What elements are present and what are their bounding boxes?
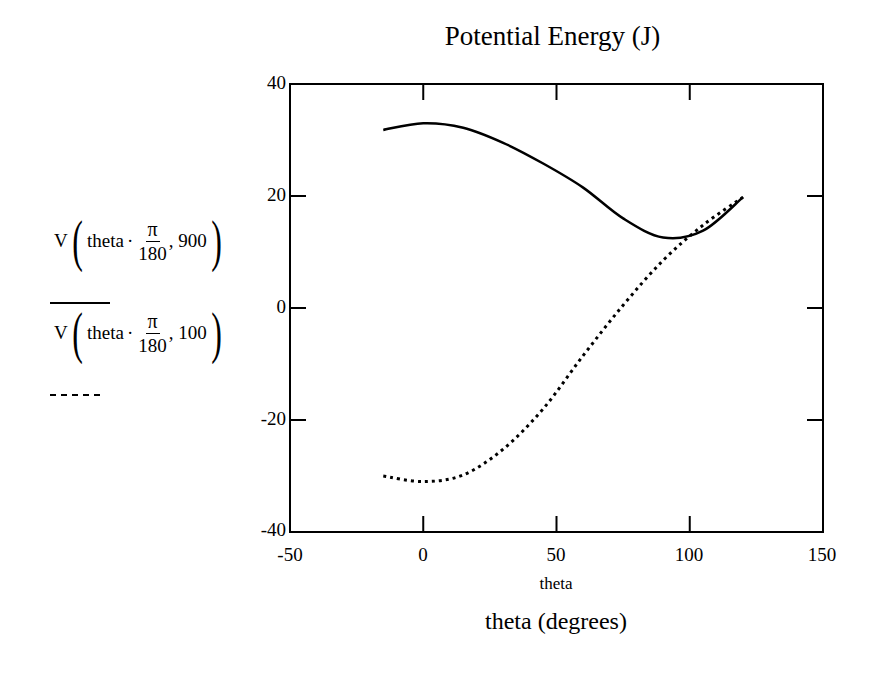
x-tick-label: -50 [260,544,320,566]
legend-var: theta [87,230,124,252]
fraction-denominator: 180 [138,242,167,266]
x-tick-label: 100 [659,544,719,566]
legend-entry-series1: V ( theta · π 180 , 900 ) [54,212,226,270]
legend-func: V [54,230,68,252]
x-variable-label: theta [496,574,616,594]
x-tick-label: 0 [393,544,453,566]
legend-dot: · [127,230,133,252]
legend-fraction: π 180 [138,309,167,358]
y-tick-label: 0 [246,296,286,318]
y-tick-label: 20 [246,184,286,206]
legend-dot: · [127,322,133,344]
legend-dashed-line-swatch [50,394,104,396]
x-axis-title: theta (degrees) [426,608,686,635]
y-tick-label: 40 [246,72,286,94]
legend-arg: , 900 [169,230,207,252]
legend-var: theta [87,322,124,344]
plot-frame [290,84,823,532]
left-paren: ( [72,304,83,362]
fraction-denominator: 180 [138,334,167,358]
fraction-numerator: π [146,217,160,242]
x-tick-label: 150 [792,544,852,566]
x-tick-label: 50 [526,544,586,566]
y-tick-label: -40 [246,519,286,541]
left-paren: ( [72,212,83,270]
right-paren: ) [211,304,222,362]
legend-arg: , 100 [169,322,207,344]
series-dotted-line [383,197,743,481]
legend-func: V [54,322,68,344]
right-paren: ) [211,212,222,270]
series-solid-line [383,123,743,238]
fraction-numerator: π [146,309,160,334]
legend-fraction: π 180 [138,217,167,266]
legend-entry-series2: V ( theta · π 180 , 100 ) [54,304,226,362]
y-tick-label: -20 [246,408,286,430]
